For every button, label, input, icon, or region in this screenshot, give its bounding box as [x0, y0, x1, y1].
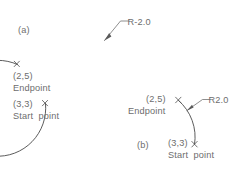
figure-a-radius-label: R-2.0	[128, 17, 151, 27]
figure-a-label: (a)	[18, 25, 30, 35]
figure-b-endpoint-caption: Endpoint	[128, 106, 166, 116]
figure-b-endpoint-coords: (2,5)	[146, 94, 166, 104]
figure-b-radius-label: R2.0	[209, 95, 229, 105]
drawing-canvas: (a) R-2.0 (2,5) Endpoint (3,3) Start poi…	[0, 0, 244, 176]
figure-a-startpoint-caption: Start point	[13, 111, 60, 121]
figure-b-leader-arrowhead	[187, 105, 194, 111]
figure-a-endpoint-caption: Endpoint	[13, 83, 51, 93]
figure-a-group: (a) R-2.0 (2,5) Endpoint (3,3) Start poi…	[0, 17, 151, 157]
figure-a-startpoint-x-icon	[42, 100, 47, 105]
figure-a-startpoint-coords: (3,3)	[13, 99, 33, 109]
figure-a-endpoint-coords: (2,5)	[13, 71, 33, 81]
figure-b-startpoint-caption: Start point	[168, 150, 215, 160]
figure-b-startpoint-coords: (3,3)	[168, 138, 188, 148]
figure-b-label: (b)	[137, 140, 149, 150]
figure-a-leader-arrowhead	[104, 33, 111, 41]
figure-b-group: (b) R2.0 (2,5) Endpoint (3,3) Start poin…	[128, 94, 229, 160]
technical-drawing-svg: (a) R-2.0 (2,5) Endpoint (3,3) Start poi…	[0, 0, 244, 176]
figure-b-endpoint-x-icon	[176, 97, 181, 103]
